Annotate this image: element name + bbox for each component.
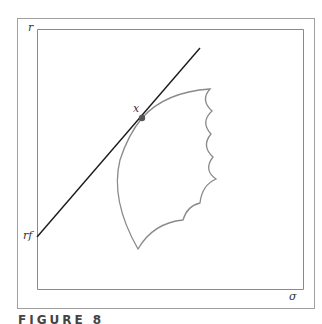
figure-caption: FIGURE 8: [18, 314, 104, 324]
tangent-point-label: x: [133, 103, 139, 114]
x-axis-label: σ: [289, 291, 297, 302]
figure-diagram: [0, 0, 322, 324]
rf-label: rf: [23, 230, 32, 241]
outer-frame: [18, 19, 315, 309]
tangent-point-marker: [139, 115, 145, 121]
y-axis-label: r: [28, 22, 33, 33]
capital-market-line: [37, 48, 200, 237]
axes-frame: [38, 30, 304, 290]
